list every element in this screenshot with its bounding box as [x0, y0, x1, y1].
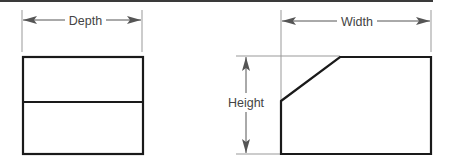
- front-view: Width Height: [228, 10, 431, 154]
- width-label: Width: [341, 15, 373, 29]
- side-view: Depth: [22, 10, 143, 154]
- height-label: Height: [228, 96, 265, 110]
- front-view-outline: [281, 57, 431, 154]
- side-view-outline: [23, 57, 143, 154]
- depth-label: Depth: [69, 14, 102, 28]
- dimension-diagram: Depth Width Height: [0, 0, 453, 167]
